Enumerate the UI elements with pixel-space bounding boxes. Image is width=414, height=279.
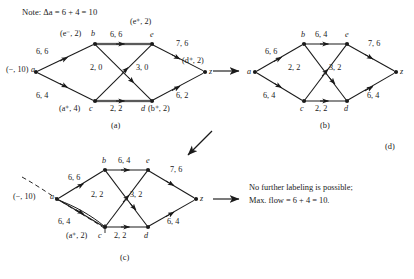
panel-a-edge-bd: 3, 0 <box>136 64 148 72</box>
panel-d-line-2: Max. flow = 6 + 4 = 10. <box>249 195 329 208</box>
panel-c-edge-ez: 7, 6 <box>170 166 182 174</box>
panel-b-edge-ac: 6, 4 <box>263 92 275 100</box>
panel-a-edge-ab: 6, 6 <box>36 48 48 56</box>
panel-a-node-z: z <box>209 68 212 76</box>
panel-a-edge-ac: 6, 4 <box>36 92 48 100</box>
panel-c-node-d: d <box>144 232 148 240</box>
panel-c-id: (c) <box>120 254 129 262</box>
panel-a-node-d: d <box>141 105 145 113</box>
panel-c-label-a: (−, 10) <box>13 193 35 201</box>
panel-a-label-d: (b⁺, 2) <box>148 105 170 113</box>
panel-a-edge-cd: 2, 2 <box>110 105 122 113</box>
panel-c-edge-ce: 2, 2 <box>91 191 103 199</box>
panel-b-node-e: e <box>345 31 349 39</box>
panel-b-edge-be: 6, 4 <box>315 31 327 39</box>
panel-b-edge-ce: 2, 2 <box>288 64 300 72</box>
panel-b-node-a: a <box>247 68 251 76</box>
panel-b-node-d: d <box>344 105 348 113</box>
panel-a-label-a: (−, 10) <box>6 66 28 74</box>
panel-a-id: (a) <box>111 122 120 130</box>
panel-b-node-z: z <box>400 68 403 76</box>
panel-c-edge-ac: 6, 4 <box>58 218 70 226</box>
figure-max-flow-labeling: Note: Δa = 6 + 4 = 10 (−, 10) a (e⁻, 2) … <box>0 0 414 279</box>
panel-c-node-b: b <box>102 157 106 165</box>
panel-c-edge-ab: 6, 6 <box>68 174 80 182</box>
panel-a-label-c: (a⁺, 4) <box>59 105 80 113</box>
panel-a-label-e: (e⁺, 2) <box>130 18 151 26</box>
panel-b-edge-bd: 3, 2 <box>329 64 341 72</box>
panel-c-edge-cd: 2, 2 <box>114 232 126 240</box>
panel-c-edge-bd: 3, 2 <box>130 191 142 199</box>
panel-a-label-b: (e⁻, 2) <box>60 30 81 38</box>
arrow-b-to-c <box>188 131 212 155</box>
panel-b-edge-cd: 2, 2 <box>315 105 327 113</box>
panel-c-node-z: z <box>200 195 203 203</box>
panel-a-edge-dz: 6, 2 <box>176 92 188 100</box>
panel-b-edge-ez: 7, 6 <box>368 40 380 48</box>
panel-a-edge-be: 6, 6 <box>110 31 122 39</box>
panel-c-node-c: c <box>98 232 102 240</box>
panel-c-label-c: (a⁺, 2) <box>66 232 87 240</box>
panel-d-id: (d) <box>385 143 395 151</box>
panel-a-node-a: a <box>31 66 35 74</box>
panel-b-id: (b) <box>320 122 330 130</box>
panel-b-edge-dz: 6, 4 <box>367 92 379 100</box>
figure-note: Note: Δa = 6 + 4 = 10 <box>22 8 97 17</box>
panel-c-edge-dz: 6, 4 <box>167 218 179 226</box>
panel-c-node-a: a <box>50 193 54 201</box>
panel-b-edge-ab: 6, 6 <box>265 48 277 56</box>
panel-c-edge-be: 6, 4 <box>118 157 130 165</box>
panel-a-node-b: b <box>91 30 95 38</box>
panel-b-node-c: c <box>300 105 304 113</box>
panel-a-node-c: c <box>89 105 93 113</box>
panel-d-line-1: No further labeling is possible; <box>249 182 353 195</box>
figure-vector-layer <box>0 0 414 279</box>
panel-c-node-e: e <box>146 157 150 165</box>
panel-a-node-e: e <box>150 31 154 39</box>
panel-a-edge-ce: 2, 0 <box>90 64 102 72</box>
panel-b-node-b: b <box>301 31 305 39</box>
panel-a-label-z: (d⁺, 2) <box>182 57 204 65</box>
panel-a-edge-ez: 7, 6 <box>176 40 188 48</box>
